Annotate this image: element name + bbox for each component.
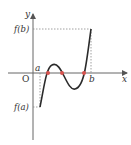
y-axis-label: y: [24, 9, 31, 19]
root-point: [60, 71, 64, 75]
graph-svg: y x O a b f(b) f(a): [0, 0, 131, 145]
a-label: a: [35, 63, 40, 73]
cubic-curve: [40, 29, 91, 107]
fb-label: f(b): [13, 24, 29, 34]
b-label: b: [89, 74, 95, 84]
fa-label: f(a): [13, 102, 29, 112]
function-graph: y x O a b f(b) f(a): [0, 0, 131, 145]
origin-label: O: [22, 74, 29, 84]
root-point: [82, 71, 86, 75]
x-axis-label: x: [122, 74, 127, 84]
root-point: [46, 71, 50, 75]
